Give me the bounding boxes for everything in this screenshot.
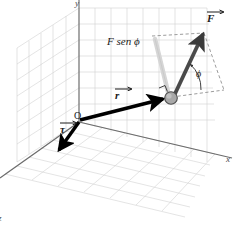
dashed-horizontal-to-force-tip (152, 33, 204, 36)
application-point-ball (165, 92, 178, 105)
force-component-label: F sen ϕ (107, 36, 140, 47)
position-vector-arrow (80, 99, 163, 120)
torque-vector-symbol: τ (60, 123, 65, 135)
origin-label: O (74, 111, 81, 121)
position-vector-symbol: r (115, 89, 119, 101)
y-axis-label: y (75, 0, 79, 8)
force-vector-arrow (173, 34, 203, 98)
force-component-segment (155, 39, 169, 96)
z-axis-label: z (0, 214, 2, 223)
position-vector-label: r (115, 90, 119, 101)
force-vector-label: F (207, 13, 214, 24)
force-vector-symbol: F (207, 12, 214, 24)
figure-canvas (0, 0, 242, 225)
left-plane-grid (17, 8, 79, 162)
dashed-baseline-from-ball (172, 90, 224, 97)
z-axis (0, 122, 79, 178)
x-axis (79, 122, 232, 158)
torque-vector-label: τ (60, 124, 65, 135)
angle-phi-label: ϕ (196, 69, 201, 79)
torque-diagram-figure: y x z O F r τ F sen ϕ ϕ (0, 0, 242, 225)
floor-plane-grid (5, 122, 215, 217)
x-axis-label: x (226, 155, 230, 164)
